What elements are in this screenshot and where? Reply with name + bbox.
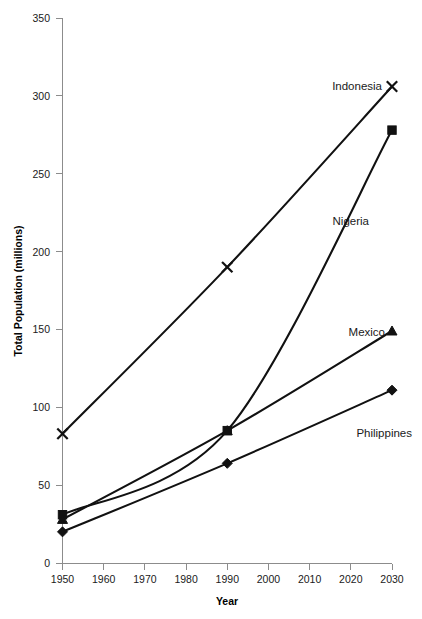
data-point-philippines-2030: [387, 385, 397, 395]
x-tick-label-2000: 2000: [257, 573, 281, 585]
y-axis-title: Total Population (millions): [12, 225, 24, 356]
data-point-nigeria-2030: [388, 126, 396, 134]
series-line-indonesia: [63, 87, 393, 434]
series-label-indonesia: Indonesia: [332, 80, 382, 92]
data-point-indonesia-1990: [222, 262, 232, 272]
y-tick-label-250: 250: [32, 168, 50, 180]
series-label-mexico: Mexico: [349, 326, 385, 338]
y-tick-label-0: 0: [44, 557, 50, 569]
line-chart: 350 300 250 200 150 100 50 0 Total Popul…: [0, 0, 422, 619]
series-label-philippines: Philippines: [356, 427, 412, 439]
data-point-indonesia-2030: [387, 81, 397, 91]
x-tick-label-1960: 1960: [92, 573, 116, 585]
y-tick-label-200: 200: [32, 246, 50, 258]
x-axis: 1950 1960 1970 1980 1990 2000 2010 2020 …: [51, 564, 404, 608]
x-tick-label-1990: 1990: [216, 573, 240, 585]
chart-canvas: 350 300 250 200 150 100 50 0 Total Popul…: [0, 0, 422, 619]
series-label-nigeria: Nigeria: [333, 215, 370, 227]
data-point-philippines-1990: [222, 458, 232, 468]
series-indonesia: [57, 81, 397, 439]
series-mexico: [58, 326, 398, 523]
y-tick-label-150: 150: [32, 323, 50, 335]
series-line-nigeria: [63, 130, 393, 515]
data-point-mexico-2030: [387, 326, 397, 335]
x-tick-label-2010: 2010: [298, 573, 322, 585]
x-axis-title: Year: [216, 595, 238, 607]
y-tick-label-300: 300: [32, 90, 50, 102]
series-philippines: [58, 385, 398, 537]
y-tick-label-350: 350: [32, 12, 50, 24]
x-tick-label-1950: 1950: [51, 573, 75, 585]
y-axis: 350 300 250 200 150 100 50 0 Total Popul…: [12, 12, 63, 569]
y-tick-label-50: 50: [38, 479, 50, 491]
x-tick-label-2020: 2020: [339, 573, 363, 585]
x-tick-label-1980: 1980: [174, 573, 198, 585]
x-tick-label-1970: 1970: [133, 573, 157, 585]
x-tick-label-2030: 2030: [380, 573, 404, 585]
series-layer: [57, 81, 397, 537]
y-tick-label-100: 100: [32, 401, 50, 413]
data-point-philippines-1950: [58, 527, 68, 537]
